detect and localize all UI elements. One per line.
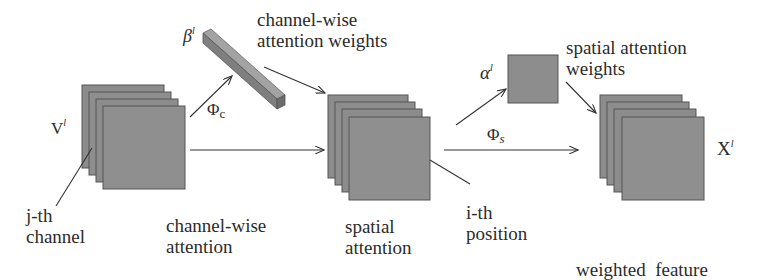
phi-s-symbol: Φs — [487, 125, 505, 147]
input-feature-stack — [82, 85, 185, 189]
x-l-symbol: Xl — [717, 138, 734, 160]
phi-c-symbol: Φc — [207, 100, 225, 122]
j-th-channel-leader — [56, 148, 92, 206]
channel-wise-attention-weights-label: channel-wise attention weights — [257, 9, 387, 51]
channel-weighted-feature-stack — [328, 95, 430, 200]
weighted-feature-stack — [600, 95, 704, 200]
spatial-attention-weights-label: spatial attention weights — [566, 37, 687, 79]
i-th-position-label: i-th position — [466, 202, 527, 244]
i-th-position-leader — [430, 160, 470, 184]
spatial-attention-label: spatial attention — [345, 216, 411, 258]
weighted-feature-maps-label: weighted feature maps — [576, 217, 708, 280]
channel-wise-attention-label: channel-wise attention — [166, 215, 266, 257]
v-l-symbol: Vl — [51, 117, 66, 139]
alpha-l-symbol: αl — [480, 62, 493, 84]
j-th-channel-label: j-th channel — [26, 205, 85, 247]
alpha-arrow — [456, 89, 506, 125]
spatial-attention-weights-map — [508, 55, 558, 103]
spatial-weights-arrow — [566, 82, 596, 113]
beta-l-symbol: βl — [183, 25, 195, 47]
